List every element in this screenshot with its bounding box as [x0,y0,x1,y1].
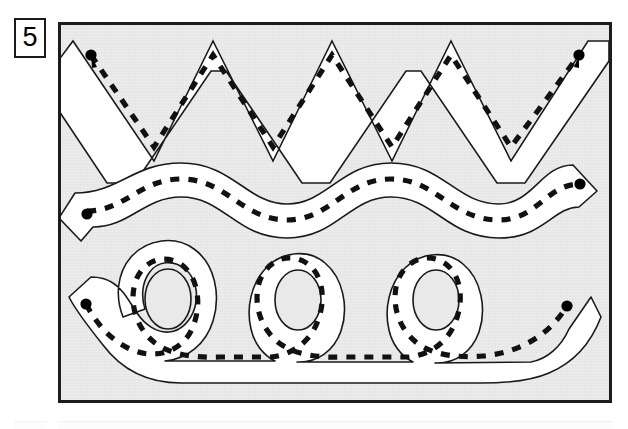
loop-hole-1 [145,269,191,329]
loop-hole-2 [275,270,321,330]
loop-hole-3 [413,270,459,330]
zigzag-tracing-path[interactable] [61,41,609,183]
wave-end-dot [574,178,585,189]
worksheet-page: 5 [0,0,628,429]
next-exercise-badge-sliver [14,421,46,429]
loops-start-dot [80,298,91,309]
loops-tracing-path[interactable] [69,241,601,383]
exercise-number-badge: 5 [14,18,46,58]
next-exercise-frame-sliver [58,421,612,429]
zigzag-lane-outline [61,41,609,183]
worksheet-frame [58,22,612,403]
loops-end-dot [561,300,572,311]
exercise-number-label: 5 [22,24,37,51]
wave-start-dot [81,208,92,219]
tracing-paths-canvas [61,25,609,400]
